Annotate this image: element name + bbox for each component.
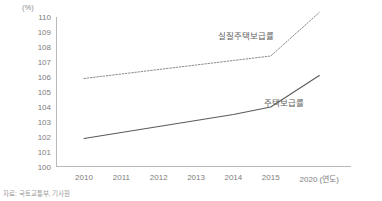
x-tick-label: 2012	[150, 173, 168, 182]
x-tick-label: 2014	[224, 173, 242, 182]
y-tick-label: 101	[25, 148, 51, 157]
y-tick-label: 106	[25, 73, 51, 82]
series-label-real-housing-supply-rate: 실질주택보급률	[218, 29, 274, 41]
y-tick-label: 110	[25, 13, 51, 22]
chart-container: (%) 110109108107106105104103102101100 20…	[0, 0, 382, 201]
y-axis-unit-label: (%)	[22, 3, 34, 12]
y-tick-label: 105	[25, 88, 51, 97]
series-line	[84, 13, 319, 79]
y-tick-label: 107	[25, 58, 51, 67]
plot-area: 110109108107106105104103102101100 201020…	[56, 17, 351, 167]
y-tick-label: 103	[25, 118, 51, 127]
source-note: 자료: 국토교통부, 기사원	[3, 188, 70, 198]
series-label-housing-supply-rate: 주택보급률	[264, 96, 304, 108]
y-tick-label: 100	[25, 163, 51, 172]
x-tick-label: 2013	[187, 173, 205, 182]
y-tick-label: 108	[25, 43, 51, 52]
y-tick-label: 104	[25, 103, 51, 112]
y-tick-label: 109	[25, 28, 51, 37]
x-tick-label: 2020 (연도)	[300, 173, 339, 184]
x-tick-label: 2010	[75, 173, 93, 182]
x-tick-label: 2015	[262, 173, 280, 182]
y-tick-label: 102	[25, 133, 51, 142]
series-lines	[56, 17, 351, 167]
x-tick-label: 2011	[113, 173, 130, 182]
